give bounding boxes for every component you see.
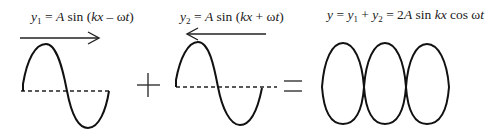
- equation-wave2: y2 = A sin (kx + ωt): [178, 9, 284, 26]
- standing-wave-envelope: [322, 43, 449, 124]
- arrow-right-icon: [20, 32, 99, 44]
- sine-wave-1: [23, 44, 109, 128]
- equation-wave1: y1 = A sin (kx – ωt): [29, 9, 134, 26]
- equation-sum: y = y1 + y2 = 2A sin kx cos ωt: [325, 7, 485, 24]
- equals-operator: [284, 81, 302, 91]
- standing-wave-diagram: y1 = A sin (kx – ωt) y2 = A sin (kx + ωt…: [0, 0, 492, 137]
- plus-operator: [137, 73, 160, 97]
- arrow-left-icon: [187, 28, 266, 40]
- sine-wave-2: [176, 42, 262, 125]
